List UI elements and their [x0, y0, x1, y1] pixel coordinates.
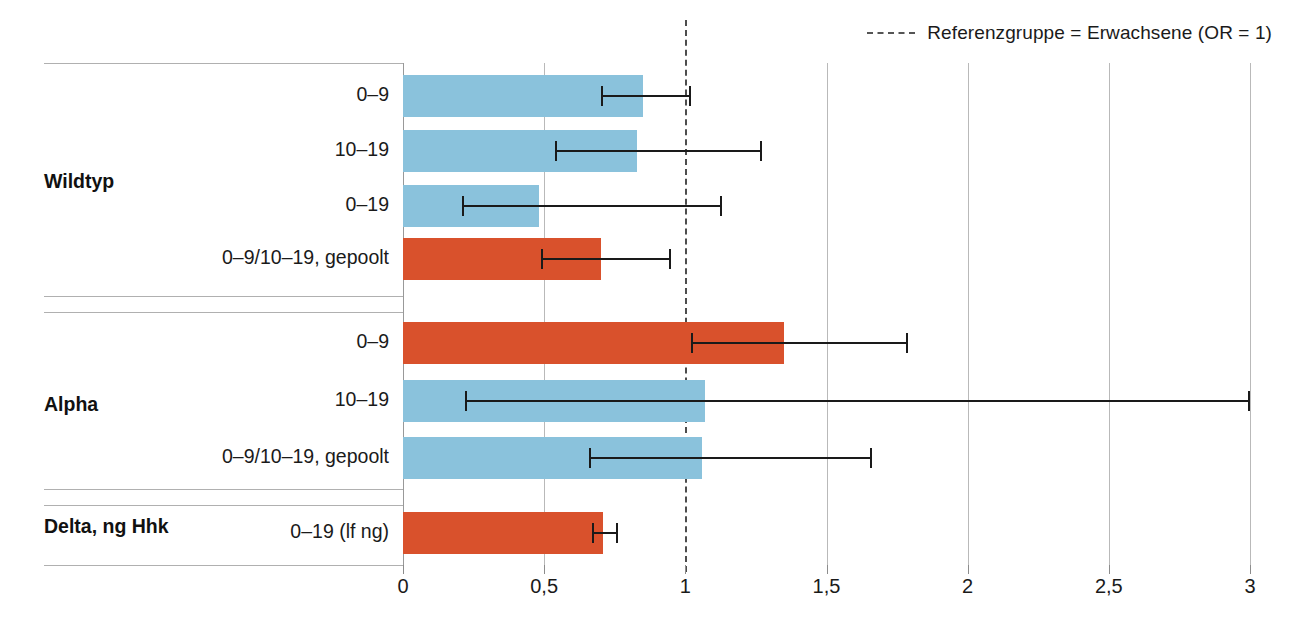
bar: [403, 512, 603, 554]
group-separator: [44, 312, 403, 313]
x-tick-label: 2,5: [1095, 575, 1123, 598]
x-tick-mark: [1250, 565, 1251, 574]
row-label: 0–9: [0, 330, 389, 353]
x-tick-label: 1,5: [813, 575, 841, 598]
x-tick-label: 3: [1244, 575, 1255, 598]
row-label: 0–9/10–19, gepoolt: [0, 246, 389, 269]
error-bar-line: [541, 258, 671, 260]
error-bar-line: [691, 342, 908, 344]
error-bar-cap: [669, 249, 671, 269]
error-bar-cap: [541, 249, 543, 269]
row-label: 0–9: [0, 83, 389, 106]
gridline: [1250, 63, 1251, 565]
group-label: Alpha: [44, 393, 98, 416]
group-separator: [44, 489, 403, 490]
error-bar-cap: [616, 523, 618, 543]
error-bar-line: [589, 457, 871, 459]
row-label: 0–9/10–19, gepoolt: [0, 445, 389, 468]
x-tick-mark: [1109, 565, 1110, 574]
row-label: 10–19: [0, 138, 389, 161]
group-label: Delta, ng Hhk: [44, 515, 169, 538]
x-tick-mark: [968, 565, 969, 574]
error-bar-cap: [589, 448, 591, 468]
error-bar-cap: [870, 448, 872, 468]
error-bar-cap: [465, 391, 467, 411]
error-bar-cap: [689, 86, 691, 106]
x-tick-mark: [685, 565, 686, 574]
group-separator: [44, 565, 403, 566]
error-bar-line: [601, 95, 691, 97]
error-bar-cap: [592, 523, 594, 543]
x-tick-mark: [544, 565, 545, 574]
group-separator: [44, 505, 403, 506]
x-tick-label: 1: [680, 575, 691, 598]
group-label: Wildtyp: [44, 170, 114, 193]
reference-line: [685, 20, 687, 572]
gridline: [827, 63, 828, 565]
error-bar-cap: [760, 141, 762, 161]
odds-ratio-chart: Referenzgruppe = Erwachsene (OR = 1) 0–9…: [0, 0, 1302, 641]
error-bar-cap: [462, 196, 464, 216]
row-label: 0–19: [0, 193, 389, 216]
group-separator: [44, 63, 403, 64]
error-bar-cap: [906, 333, 908, 353]
group-separator: [44, 296, 403, 297]
error-bar-line: [462, 205, 722, 207]
x-tick-label: 2: [962, 575, 973, 598]
error-bar-line: [555, 150, 761, 152]
error-bar-cap: [1248, 391, 1250, 411]
error-bar-cap: [691, 333, 693, 353]
plot-area: 0–910–190–190–9/10–19, gepoolt0–910–190–…: [0, 0, 1302, 641]
x-tick-mark: [403, 565, 404, 574]
x-tick-label: 0: [397, 575, 408, 598]
error-bar-cap: [720, 196, 722, 216]
x-tick-label: 0,5: [530, 575, 558, 598]
x-tick-mark: [827, 565, 828, 574]
error-bar-cap: [555, 141, 557, 161]
error-bar-line: [592, 532, 617, 534]
error-bar-line: [465, 400, 1250, 402]
gridline: [1109, 63, 1110, 565]
error-bar-cap: [601, 86, 603, 106]
gridline: [968, 63, 969, 565]
